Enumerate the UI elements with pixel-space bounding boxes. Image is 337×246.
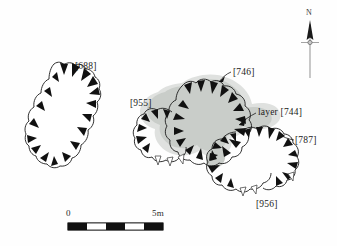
scale-bar-start-label: 0 [66,209,71,218]
feature-787 [242,126,299,190]
north-arrow-head [307,20,314,40]
plan-drawing-canvas [0,0,337,246]
feature-label-787: [787] [295,136,317,146]
feature-955-hachures-open [155,154,184,166]
scale-bar-icon [68,223,163,230]
site-plan-figure: [688] [955] [746] [787] [956] layer [744… [0,0,337,246]
scale-bar-segment-3 [106,223,125,230]
north-arrow-label: N [306,9,312,17]
feature-label-746: [746] [233,68,255,78]
scale-bar-segment-2 [87,223,106,230]
feature-688 [25,62,101,168]
deposit-label-744: layer [744] [258,108,302,118]
feature-label-955: [955] [130,99,152,109]
scale-bar-segment-5 [144,223,163,230]
north-arrow-hub [308,40,312,44]
scale-bar-segment-1 [68,223,87,230]
feature-label-688: [688] [75,62,97,72]
scale-bar-segment-4 [125,223,144,230]
north-arrow-icon [301,20,319,78]
scale-bar-end-label: 5m [152,209,164,218]
feature-label-956: [956] [256,200,278,210]
